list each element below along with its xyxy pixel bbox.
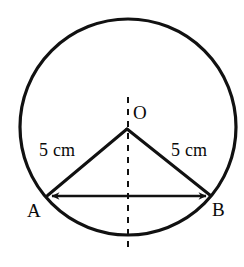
label-center-o: O [133, 103, 147, 122]
geometry-canvas [0, 0, 244, 267]
radius-segment-right [127, 129, 211, 196]
label-vertex-b: B [212, 200, 225, 219]
label-radius-left: 5 cm [39, 141, 75, 159]
geometry-figure: O A B 5 cm 5 cm [0, 0, 244, 267]
label-vertex-a: A [27, 201, 41, 220]
label-radius-right: 5 cm [171, 141, 207, 159]
radius-segment-left [48, 129, 128, 196]
